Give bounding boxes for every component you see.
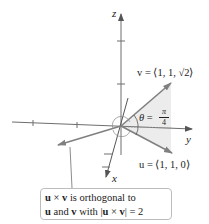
vector-v-label: v = ⟨1, 1, √2⟩	[137, 68, 193, 79]
y-axis-label: y	[186, 134, 191, 145]
vector-u-text: u = ⟨1, 1, 0⟩	[139, 159, 190, 170]
annotation-box: u × v is orthogonal to u and v with |u ×…	[40, 188, 172, 220]
x-axis	[106, 98, 128, 177]
angle-numerator: π	[159, 108, 169, 118]
annotation-line-2: u and v with |u × v| = 2	[45, 205, 167, 219]
angle-denominator: 4	[159, 118, 169, 127]
vector-u-label: u = ⟨1, 1, 0⟩	[139, 160, 190, 171]
z-axis-label: z	[112, 8, 116, 19]
annotation-line-1: u × v is orthogonal to	[45, 191, 167, 205]
vector-u-cross-v	[58, 126, 121, 145]
vector-v-text: v = ⟨1, 1, √2⟩	[137, 67, 193, 78]
theta-symbol: θ	[139, 112, 144, 123]
annotation-leader	[70, 147, 72, 188]
x-axis-label: x	[112, 173, 117, 184]
angle-label: θ =	[139, 113, 153, 124]
equals-sign: =	[147, 112, 153, 123]
angle-fraction: π 4	[159, 108, 169, 127]
